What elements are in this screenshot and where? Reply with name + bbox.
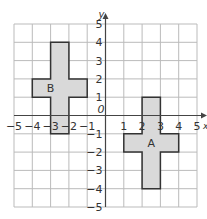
x-tick-label: −4 — [24, 120, 40, 133]
y-tick-label: −2 — [86, 146, 102, 159]
y-tick-label: 2 — [96, 73, 103, 86]
x-tick-label: 2 — [139, 120, 146, 133]
x-tick-label: −2 — [61, 120, 77, 133]
y-tick-label: −3 — [86, 164, 102, 177]
coordinate-grid-diagram: BA yx0−5−4−3−2−11234554321−1−2−3−4−5 — [0, 0, 207, 219]
x-tick-label: 3 — [157, 120, 164, 133]
x-axis-arrow-icon — [201, 113, 207, 119]
x-tick-label: 5 — [194, 120, 201, 133]
shape-label-b: B — [47, 82, 55, 95]
x-tick-label: −5 — [6, 120, 22, 133]
y-tick-label: −5 — [86, 201, 102, 214]
y-tick-label: 1 — [96, 91, 103, 104]
x-axis-label: x — [202, 121, 207, 131]
x-tick-label: 1 — [120, 120, 127, 133]
y-tick-label: 3 — [96, 55, 103, 68]
shape-label-a: A — [147, 137, 155, 150]
tick-labels: yx0−5−4−3−2−11234554321−1−2−3−4−5 — [6, 9, 207, 214]
x-tick-label: 4 — [175, 120, 182, 133]
y-tick-label: 4 — [96, 36, 103, 49]
origin-label: 0 — [98, 103, 105, 116]
y-tick-label: 5 — [96, 18, 103, 31]
x-tick-label: −3 — [42, 120, 58, 133]
y-tick-label: −4 — [86, 183, 102, 196]
y-tick-label: −1 — [86, 128, 102, 141]
grid-svg: BA yx0−5−4−3−2−11234554321−1−2−3−4−5 — [0, 0, 207, 219]
